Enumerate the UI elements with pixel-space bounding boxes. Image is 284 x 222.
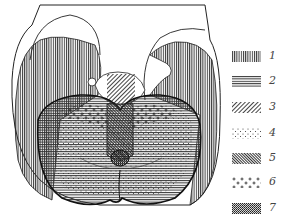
swatch-diagonal-lines	[232, 102, 261, 113]
legend-label: 5	[269, 151, 276, 164]
legend-label: 3	[269, 100, 276, 113]
spinal-cord-section	[111, 150, 129, 166]
legend-item-4: 4	[232, 128, 284, 140]
swatch-vertical-lines	[232, 51, 261, 62]
legend-label: 2	[269, 74, 276, 87]
legend-item-1: 1	[232, 51, 284, 63]
legend-item-2: 2	[232, 76, 284, 88]
legend-item-6: 6	[232, 177, 284, 189]
swatch-dense-diagonal	[232, 153, 261, 164]
legend-item-3: 3	[232, 102, 284, 114]
legend-label: 6	[269, 175, 276, 188]
legend-label: 7	[269, 201, 276, 214]
swatch-horizontal-lines	[232, 76, 261, 87]
legend-item-7: 7	[232, 203, 284, 215]
legend-label: 4	[269, 126, 276, 139]
swatch-dense-crosshatch	[232, 203, 261, 214]
legend-label: 1	[269, 49, 276, 62]
figure: 1 2 3 4 5 6 7	[0, 0, 284, 222]
legend-item-5: 5	[232, 153, 284, 165]
swatch-sparse-dots	[232, 128, 261, 139]
swatch-crosses	[232, 177, 261, 188]
